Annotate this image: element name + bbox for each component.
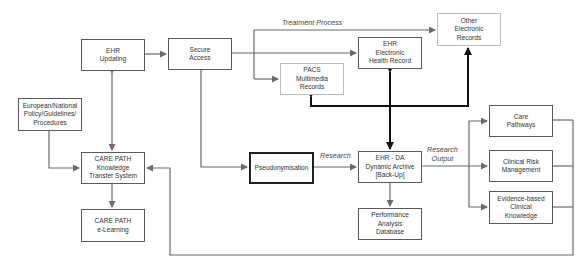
node-label: Evidence-based Clinical Knowledge xyxy=(497,195,544,220)
edge-policy-to-kts xyxy=(49,131,79,168)
label-research-output: Research Output xyxy=(427,146,458,163)
edge-fork-to-care xyxy=(469,121,487,166)
node-label: PACS Multimedia Records xyxy=(296,66,328,91)
node-ehr-da: EHR - DA Dynamic Archive [Back-Up] xyxy=(358,151,422,183)
node-ehr-record: EHR Electronic Health Record xyxy=(358,37,422,69)
node-label: EHR - DA Dynamic Archive [Back-Up] xyxy=(365,154,414,179)
label-treatment-process: Treatment Process xyxy=(282,19,342,28)
node-other-records: Other Electronic Records xyxy=(437,13,501,46)
node-european-policy: European/National Policy/Guidelines/ Pro… xyxy=(18,98,82,131)
node-clinical-risk: Clinical Risk Management xyxy=(489,150,553,182)
node-label: Clinical Risk Management xyxy=(502,158,541,175)
node-evidence-knowledge: Evidence-based Clinical Knowledge xyxy=(489,191,553,224)
node-carepath-elearning: CARE PATH e-Learning xyxy=(81,209,145,242)
node-label: Performance Analysis Database xyxy=(371,211,409,236)
node-label: European/National Policy/Guidelines/ Pro… xyxy=(23,102,78,127)
node-label: Care Pathways xyxy=(507,113,536,130)
node-pacs: PACS Multimedia Records xyxy=(280,63,344,95)
node-label: CARE PATH Knowledge Transfer System xyxy=(89,155,137,180)
node-pseudonymisation: Pseudonymisation xyxy=(249,152,314,184)
node-label: Secure Access xyxy=(189,46,210,63)
node-performance-db: Performance Analysis Database xyxy=(358,208,422,240)
edge-fork-to-evidence xyxy=(469,166,487,207)
label-research: Research xyxy=(320,152,351,161)
node-label: Other Electronic Records xyxy=(455,17,484,42)
edge-secure-to-pseudo xyxy=(201,70,247,167)
node-label: EHR Electronic Health Record xyxy=(369,40,411,65)
node-ehr-updating: EHR Updating xyxy=(81,39,145,71)
node-label: EHR Updating xyxy=(100,47,126,64)
node-secure-access: Secure Access xyxy=(168,38,232,70)
node-carepath-kts: CARE PATH Knowledge Transfer System xyxy=(81,152,145,184)
care-path-diagram: EHR Updating Secure Access EHR Electroni… xyxy=(0,0,588,267)
node-care-pathways: Care Pathways xyxy=(489,105,553,137)
node-label: CARE PATH e-Learning xyxy=(95,217,132,234)
node-label: Pseudonymisation xyxy=(255,164,309,172)
